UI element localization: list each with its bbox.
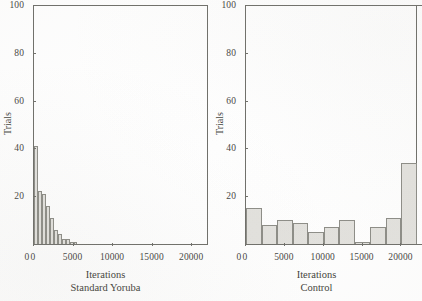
histogram-bar: [293, 223, 309, 245]
y-axis-title-standard-yoruba: Trials: [2, 104, 13, 144]
caption-line2-control: Control: [211, 281, 422, 294]
histogram-bar: [355, 242, 371, 244]
caption-line2-standard-yoruba: Standard Yoruba: [0, 281, 211, 294]
panel-standard-yoruba: 20406080100 050001000015000200000 Trials…: [0, 0, 211, 301]
x-tick-label-10000: 10000: [100, 252, 124, 262]
x-origin-label: 0: [237, 252, 242, 262]
x-tick-label-15000: 15000: [140, 252, 164, 262]
plot-area-control: [245, 5, 422, 245]
x-origin-label: 0: [25, 252, 30, 262]
x-tick-label-5000: 5000: [63, 252, 82, 262]
histogram-bar: [339, 220, 355, 244]
bars-control: [246, 5, 422, 244]
y-tick-20: [245, 196, 248, 197]
plot-area-standard-yoruba: [33, 5, 208, 245]
y-tick-100: [245, 5, 248, 6]
histogram-bar: [324, 227, 340, 244]
x-tick-10000: [112, 243, 113, 246]
y-tick-label-100: 100: [9, 0, 24, 10]
y-tick-60: [33, 101, 36, 102]
y-tick-40: [33, 148, 36, 149]
x-tick-5000: [284, 243, 285, 246]
bars-standard-yoruba: [34, 5, 208, 244]
histogram-bar: [401, 163, 417, 244]
y-tick-60: [245, 101, 248, 102]
caption-line1-control: Iterations: [211, 268, 422, 281]
x-tick-label-20000: 20000: [179, 252, 203, 262]
y-tick-label-80: 80: [14, 48, 24, 58]
y-tick-label-40: 40: [14, 143, 24, 153]
figure-two-histograms: 20406080100 050001000015000200000 Trials…: [0, 0, 422, 301]
x-tick-label-20000: 20000: [388, 252, 412, 262]
y-tick-40: [245, 148, 248, 149]
x-tick-label-0: 0: [243, 252, 248, 262]
x-tick-labels-control: 050001000015000200000: [245, 252, 422, 266]
x-tick-label-10000: 10000: [311, 252, 335, 262]
y-tick-80: [245, 53, 248, 54]
histogram-bar: [386, 218, 402, 244]
y-tick-label-40: 40: [226, 143, 236, 153]
histogram-bar: [74, 242, 78, 244]
y-axis-title-control: Trials: [214, 104, 225, 144]
histogram-bar: [370, 227, 386, 244]
y-tick-label-60: 60: [14, 96, 24, 106]
x-tick-labels-standard-yoruba: 050001000015000200000: [33, 252, 208, 266]
x-tick-20000: [191, 243, 192, 246]
histogram-bar: [262, 225, 278, 244]
x-tick-10000: [323, 243, 324, 246]
x-axis-line-left: [33, 244, 208, 245]
y-tick-80: [33, 53, 36, 54]
y-tick-label-80: 80: [226, 48, 236, 58]
panel-control: 20406080100 050001000015000200000 Trials…: [211, 0, 422, 301]
y-tick-100: [33, 5, 36, 6]
x-axis-line-right: [245, 244, 422, 245]
histogram-bar: [308, 232, 324, 244]
x-tick-label-15000: 15000: [349, 252, 373, 262]
y-tick-label-100: 100: [221, 0, 236, 10]
x-tick-15000: [152, 243, 153, 246]
x-tick-15000: [362, 243, 363, 246]
y-tick-label-60: 60: [226, 96, 236, 106]
x-tick-label-0: 0: [31, 252, 36, 262]
x-tick-0: [245, 243, 246, 246]
y-tick-label-20: 20: [14, 191, 24, 201]
x-tick-20000: [400, 243, 401, 246]
histogram-bar: [246, 208, 262, 244]
y-tick-20: [33, 196, 36, 197]
y-tick-label-20: 20: [226, 191, 236, 201]
caption-line1-standard-yoruba: Iterations: [0, 268, 211, 281]
x-tick-0: [33, 243, 34, 246]
x-tick-5000: [73, 243, 74, 246]
histogram-bar: [277, 220, 293, 244]
x-tick-label-5000: 5000: [274, 252, 293, 262]
